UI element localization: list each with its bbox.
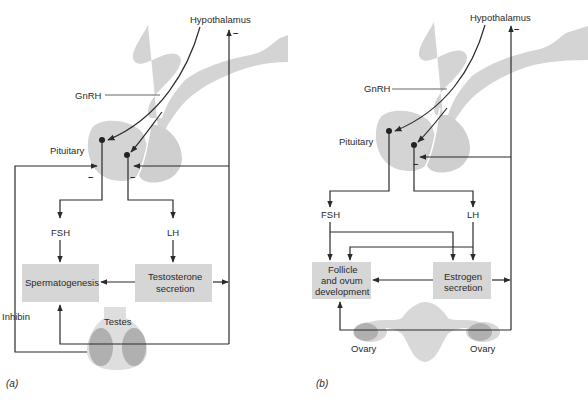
testes-label: Testes: [104, 316, 132, 327]
spermatogenesis-label: Spermatogenesis: [25, 277, 99, 288]
estrogen-label: Estrogen: [444, 271, 482, 282]
pituitary-label-b: Pituitary: [339, 136, 374, 147]
fsh-label-a: FSH: [51, 227, 70, 238]
pituitary-anterior-a: [88, 121, 147, 181]
hypothalamus-label-b: Hypothalamus: [470, 12, 531, 23]
ovary-label-right: Ovary: [470, 343, 496, 354]
lh-label-a: LH: [167, 227, 179, 238]
cell-dot-fsh-a: [99, 137, 105, 143]
secretion-label-b: secretion: [444, 282, 483, 293]
development-label: development: [315, 286, 370, 297]
ovary-label-left: Ovary: [351, 343, 377, 354]
cell-dot-lh-b: [411, 142, 417, 148]
inhibit-sign: –: [130, 171, 135, 182]
hypothalamus-label-a: Hypothalamus: [190, 14, 251, 25]
inhibin-label: Inhibin: [2, 311, 30, 322]
panel-a: Hypothalamus – GnRH Pituitary – – FSH LH…: [2, 14, 288, 389]
inhibin-feedback-line: [15, 166, 97, 352]
inhibit-sign: –: [514, 23, 519, 34]
inhibit-sign: –: [88, 171, 93, 182]
testosterone-label: Testosterone: [148, 271, 202, 282]
pituitary-label-a: Pituitary: [50, 145, 85, 156]
pituitary-posterior-b: [426, 115, 470, 173]
fsh-label-b: FSH: [321, 209, 340, 220]
secretion-label-a: secretion: [156, 283, 195, 294]
brain-anatomy-a: [88, 25, 288, 183]
pituitary-posterior-a: [138, 125, 182, 183]
follicle-label: Follicle: [328, 264, 358, 275]
inhibit-sign: –: [413, 158, 418, 169]
cell-dot-fsh-b: [386, 128, 392, 134]
and-ovum-label: and ovum: [321, 275, 363, 286]
panel-a-label: (a): [6, 378, 18, 389]
panel-b-label: (b): [316, 378, 328, 389]
cell-dot-lh-a: [124, 152, 130, 158]
hormone-feedback-diagram: Hypothalamus – GnRH Pituitary – – FSH LH…: [0, 0, 588, 400]
gnrh-label-b: GnRH: [364, 83, 391, 94]
panel-b: Hypothalamus – GnRH Pituitary – FSH LH F…: [312, 12, 588, 389]
lh-label-b: LH: [467, 209, 479, 220]
pituitary-anterior-b: [376, 111, 435, 171]
brain-anatomy-b: [376, 22, 588, 173]
inhibit-sign: –: [233, 27, 238, 38]
gnrh-label-a: GnRH: [75, 90, 102, 101]
